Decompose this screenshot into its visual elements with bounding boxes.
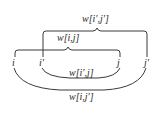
- diagram-lines: [0, 0, 160, 121]
- brace-w-i-j: [15, 47, 120, 57]
- label-w-i-j: w[i,j]: [57, 33, 80, 43]
- label-w-ip-j: w[i',j]: [69, 68, 94, 78]
- node-i: i: [12, 58, 15, 68]
- label-w-i-jp: w[i,j']: [69, 92, 94, 102]
- node-j: j: [117, 58, 120, 68]
- node-j-prime: j': [144, 58, 149, 68]
- label-w-ip-jp: w[i',j']: [82, 14, 109, 24]
- quadrangle-inequality-diagram: i i' j j' w[i',j'] w[i,j] w[i',j] w[i,j'…: [0, 0, 160, 121]
- node-i-prime: i': [39, 58, 44, 68]
